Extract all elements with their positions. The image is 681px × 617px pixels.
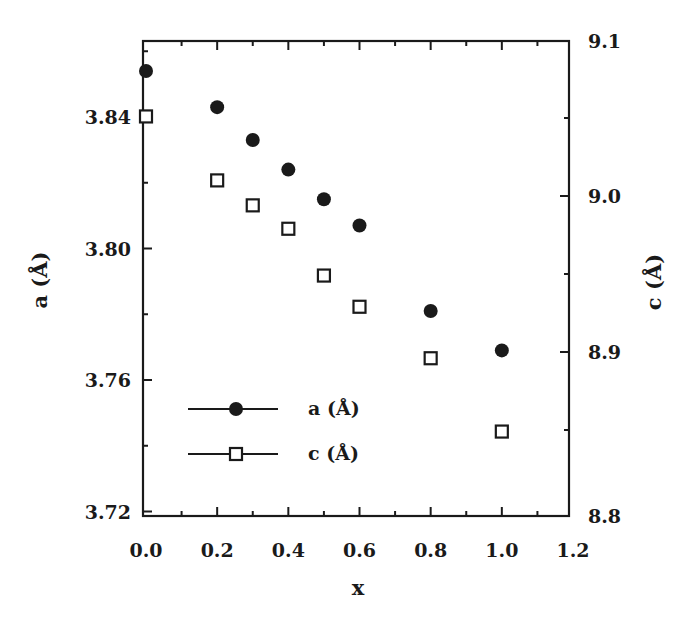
data-point-a bbox=[317, 192, 331, 206]
series-c-points bbox=[140, 110, 508, 437]
data-point-a bbox=[246, 133, 260, 147]
x-tick-label: 0.4 bbox=[272, 539, 305, 561]
right-y-axis-label: c (Å) bbox=[641, 254, 666, 310]
x-tick-label: 0.2 bbox=[201, 539, 234, 561]
x-tick-label: 1.0 bbox=[485, 539, 518, 561]
data-point-c bbox=[247, 199, 259, 211]
legend-label-a: a (Å) bbox=[308, 397, 360, 419]
data-point-a bbox=[495, 343, 509, 357]
data-point-a bbox=[210, 100, 224, 114]
data-point-c bbox=[140, 110, 152, 122]
series-a-points bbox=[139, 64, 509, 357]
legend: a (Å) c (Å) bbox=[188, 397, 360, 464]
chart: 0.00.20.40.60.81.01.2 3.723.763.803.84 8… bbox=[0, 0, 681, 617]
legend-item-c: c (Å) bbox=[188, 442, 359, 464]
left-y-axis-label: a (Å) bbox=[27, 251, 52, 308]
legend-item-a: a (Å) bbox=[188, 397, 360, 419]
y2-tick-label: 8.8 bbox=[588, 505, 621, 527]
data-point-a bbox=[139, 64, 153, 78]
data-point-c bbox=[282, 223, 294, 235]
x-tick-label: 0.6 bbox=[343, 539, 376, 561]
x-tick-label: 0.8 bbox=[414, 539, 447, 561]
data-point-a bbox=[281, 163, 295, 177]
open-square-marker-icon bbox=[230, 448, 242, 460]
data-point-a bbox=[353, 218, 367, 232]
y-tick-label: 3.84 bbox=[85, 106, 131, 128]
x-tick-label: 0.0 bbox=[129, 539, 162, 561]
data-point-c bbox=[318, 270, 330, 282]
data-point-a bbox=[424, 304, 438, 318]
x-axis-label: x bbox=[352, 575, 365, 600]
data-point-c bbox=[354, 301, 366, 313]
data-point-c bbox=[496, 426, 508, 438]
data-point-c bbox=[211, 174, 223, 186]
y-tick-label: 3.72 bbox=[85, 501, 131, 523]
y-tick-label: 3.76 bbox=[85, 369, 131, 391]
legend-label-c: c (Å) bbox=[308, 442, 359, 464]
filled-circle-marker-icon bbox=[229, 402, 243, 416]
x-tick-label: 1.2 bbox=[556, 539, 589, 561]
y-tick-label: 3.80 bbox=[85, 238, 131, 260]
y2-tick-label: 8.9 bbox=[588, 341, 621, 363]
data-point-c bbox=[425, 352, 437, 364]
y2-tick-label: 9.1 bbox=[588, 30, 621, 52]
y2-tick-label: 9.0 bbox=[588, 185, 621, 207]
